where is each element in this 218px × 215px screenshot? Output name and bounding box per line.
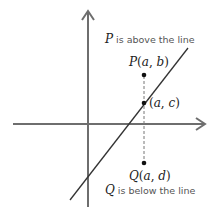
point-m-label: (a, c): [149, 96, 180, 110]
point-q-dot: [142, 161, 147, 166]
coordinate-diagram: P is above the line Q is below the line …: [0, 0, 218, 215]
point-p-label: P(a, b): [128, 55, 169, 69]
below-annotation: Q is below the line: [105, 183, 195, 197]
point-m-dot: [142, 101, 147, 106]
x-axis: [13, 118, 205, 130]
above-annotation: P is above the line: [104, 32, 195, 46]
point-p-dot: [142, 73, 147, 78]
point-q-label: Q(a, d): [129, 169, 171, 183]
